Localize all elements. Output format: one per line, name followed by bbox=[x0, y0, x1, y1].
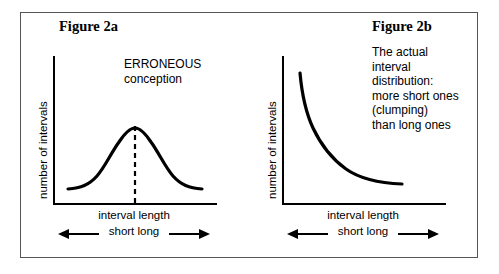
panel-2b-plot bbox=[250, 13, 479, 259]
panel-2a-range-arrows bbox=[54, 225, 214, 243]
panel-2a-x-axis-label: interval length bbox=[54, 209, 214, 221]
panel-2b-range-row: short long bbox=[283, 225, 443, 243]
panel-2b-range-arrows bbox=[283, 225, 443, 243]
panel-2a-range-row: short long bbox=[54, 225, 214, 243]
right-arrow-icon bbox=[169, 229, 210, 239]
panel-2b-x-axis-label: interval length bbox=[283, 209, 443, 221]
left-arrow-icon bbox=[58, 229, 99, 239]
panel-figure-2b: Figure 2b number of intervals The actual… bbox=[250, 13, 479, 257]
right-arrow-icon bbox=[398, 229, 439, 239]
figure-frame: Figure 2a number of intervals ERRONEOUS … bbox=[20, 12, 478, 258]
panel-2b-decay-curve bbox=[300, 73, 402, 184]
panel-2a-plot bbox=[21, 13, 250, 259]
panel-figure-2a: Figure 2a number of intervals ERRONEOUS … bbox=[21, 13, 250, 257]
left-arrow-icon bbox=[287, 229, 328, 239]
